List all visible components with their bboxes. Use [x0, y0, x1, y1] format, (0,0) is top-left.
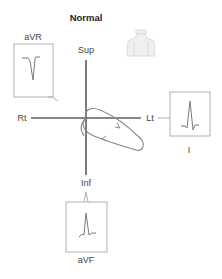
- torso-icon: [127, 30, 155, 56]
- lead-label-avr: aVR: [24, 32, 42, 42]
- axis-label-inferior: Inf: [81, 178, 91, 188]
- qrs-loop: [81, 109, 143, 151]
- axis-label-right: Rt: [18, 113, 27, 123]
- axis-label-left: Lt: [146, 113, 154, 123]
- lead-label-i: I: [188, 145, 191, 155]
- lead-avr-box: [14, 44, 58, 101]
- lead-label-avf: aVF: [78, 255, 95, 265]
- lead-i-box: [158, 92, 210, 136]
- lead-avf-box: [66, 192, 107, 252]
- axis-label-superior: Sup: [78, 45, 94, 55]
